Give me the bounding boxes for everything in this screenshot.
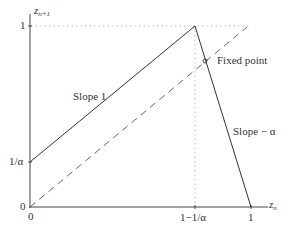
slope-left-label: Slope 1 <box>73 91 106 102</box>
x-axis-label: zn <box>269 199 277 212</box>
diagram-canvas <box>0 0 289 233</box>
x-tick-label-1: 1 <box>248 212 254 223</box>
diagonal-dashed <box>30 27 247 207</box>
x-tick-label-0: 0 <box>28 211 34 222</box>
y-tick-label-1: 1 <box>20 20 26 31</box>
slope-right-label: Slope − α <box>233 126 276 137</box>
y-axis-label: zn+1 <box>34 5 50 18</box>
x-tick-label-1-minus-1-over-alpha: 1−1/α <box>180 212 206 223</box>
y-tick-label-0: 0 <box>20 201 26 212</box>
fixed-point-label: Fixed point <box>217 55 267 66</box>
y-tick-label-1-over-alpha: 1/α <box>9 156 23 167</box>
